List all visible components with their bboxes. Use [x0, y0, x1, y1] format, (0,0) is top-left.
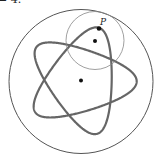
hypotrochoid-diagram: P [0, 0, 161, 160]
hypotrochoid-curve [34, 27, 137, 134]
point-p-dot [97, 26, 102, 31]
fixed-circle-center-dot [79, 79, 83, 83]
rolling-circle-center-dot [93, 39, 97, 43]
point-p-label: P [99, 17, 107, 27]
